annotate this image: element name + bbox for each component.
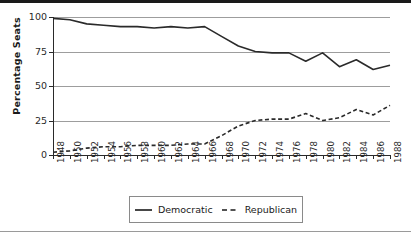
legend-item-democratic: Democratic xyxy=(135,204,213,215)
y-tick-label-100: 100 xyxy=(17,12,47,22)
y-tick-label-50: 50 xyxy=(17,81,47,91)
line-democratic xyxy=(53,18,390,69)
x-tick-mark-1988 xyxy=(390,155,391,159)
y-axis-title: Percentage Seats xyxy=(11,6,25,126)
y-tick-label-0: 0 xyxy=(17,150,47,160)
legend-label-republican: Republican xyxy=(245,204,297,215)
plot-area: 100 75 50 25 0 1948195019521954195619581… xyxy=(53,17,390,155)
y-tick-label-75: 75 xyxy=(17,47,47,57)
legend-item-republican: Republican xyxy=(222,204,297,215)
line-republican xyxy=(53,105,390,152)
page-bottom-rule xyxy=(0,231,411,232)
legend-label-democratic: Democratic xyxy=(158,204,213,215)
y-tick-label-25: 25 xyxy=(17,116,47,126)
x-tick-label-1988: 1988 xyxy=(394,141,403,163)
series-lines xyxy=(53,17,390,156)
legend-swatch-solid-icon xyxy=(135,206,152,214)
legend-swatch-dashed-icon xyxy=(222,206,239,214)
chart-legend: Democratic Republican xyxy=(129,196,303,223)
line-chart-figure: Percentage Seats 100 75 50 25 0 19481950… xyxy=(0,3,411,231)
